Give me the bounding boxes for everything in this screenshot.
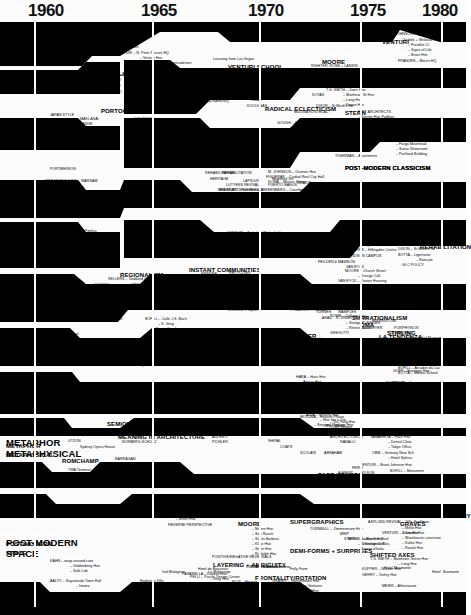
entry-label: SHIRAI <box>268 440 280 444</box>
entry-label: PORTMEIRION <box>50 168 76 172</box>
entry-label: – Portland Building <box>396 153 427 157</box>
entry-label: GOUGH <box>362 477 376 481</box>
entry-label: GLENDENNING <box>232 243 259 247</box>
entry-label: DROP CITY <box>130 289 150 293</box>
entry-label: BRUSSELS <box>170 359 190 363</box>
entry-label: – Imatra <box>76 585 90 589</box>
entry-label: – Noli a Roma <box>302 358 325 362</box>
entry-label: KOTAS <box>312 94 324 98</box>
vertical-rule-1965 <box>152 22 154 607</box>
entry-label: GLC POLICY <box>402 264 424 268</box>
entry-label: TAKEYAMA – Housing <box>225 303 262 307</box>
entry-label: GABETTI <box>105 79 121 83</box>
entry-label: Hotel Miramonte <box>432 571 459 575</box>
entry-label: FUJII – Houses <box>265 608 290 612</box>
entry-label: ORNAMENT <box>235 160 256 164</box>
entry-label: BLOM <box>300 303 310 307</box>
vertical-rule-1960 <box>34 22 36 607</box>
entry-label: FORMALISM <box>46 63 68 67</box>
entry-label: – Douglas Hse <box>172 590 196 594</box>
heading-label: SEMIOTICS <box>107 421 141 427</box>
entry-label: REGIONALISM <box>229 34 255 38</box>
entry-label: ERSKINE <box>201 273 217 277</box>
entry-label: TWA Terminal <box>68 469 91 473</box>
entry-label: GOFF – Bavinger Hse <box>393 370 430 374</box>
entry-label: LSD <box>190 400 197 404</box>
movement-label-ad-hoc-urbanist: AD HOC URBANIST <box>4 340 95 350</box>
heading-label: HOLLEIN <box>298 134 325 140</box>
entry-label: HUET <box>378 338 388 342</box>
entry-label: COLLINS – Sitte Revival <box>38 333 79 337</box>
vertical-rule-1975 <box>360 22 362 607</box>
entry-label: – Piazza d'Italia <box>326 80 352 84</box>
entry-label: BEEBY – Townhouse <box>388 81 423 85</box>
entry-label: JOHANSEN <box>268 510 288 514</box>
entry-label: BENNISON <box>322 206 341 210</box>
entry-label: – Wellesley Coll. <box>112 46 139 50</box>
entry-label: ERITH <box>226 198 237 202</box>
entry-label: PICHLER <box>212 441 228 445</box>
entry-label: – Marburg <box>127 364 144 368</box>
entry-label: SILVETTI <box>340 482 356 486</box>
entry-label: GURGOLA – Sherman Fairchild Center <box>236 70 300 74</box>
entry-label: DISNEYLAND <box>155 181 178 185</box>
entry-label: DERBYSHIRE – Hillingdon Centre <box>340 249 396 253</box>
entry-label: Botta Hse <box>58 395 74 399</box>
entry-label: HERITAGE <box>210 178 229 182</box>
year-tick-1975: 1975 <box>350 1 386 21</box>
heading-label: ROMCHAMP <box>62 458 99 464</box>
entry-label: RANALLI <box>340 441 355 445</box>
entry-label: WAR REBUILDING – WARSAW <box>45 180 98 184</box>
vertical-rule-1970 <box>259 22 261 607</box>
entry-label: – Smith Hse <box>175 598 195 602</box>
entry-label: BOLOGNA <box>327 238 345 242</box>
heading-label: METAPHYSICAL <box>6 452 54 458</box>
entry-label: ELISSON <box>290 516 306 520</box>
entry-label: PORT GRIMAUD <box>243 282 271 286</box>
entry-label: AGREST <box>338 472 353 476</box>
entry-label: PASTICHE <box>163 192 181 196</box>
entry-label: WILSON <box>360 472 374 476</box>
entry-label: HOWARD <box>364 431 381 435</box>
entry-label: GUEDES <box>94 284 109 288</box>
entry-label: MACK <box>380 482 391 486</box>
entry-label: BARRAGAN <box>115 458 136 462</box>
entry-label: AULENTI <box>105 85 121 89</box>
entry-label: GOUGH – Hookes Res <box>277 122 315 126</box>
entry-label: – Brant Hse <box>408 54 428 58</box>
entry-label: MEIER – Athenaeum <box>382 585 416 589</box>
entry-label: – Franklin Ct <box>240 237 261 241</box>
entry-label: PRAN <box>305 86 315 90</box>
entry-label: Hotel Miramonte <box>384 567 411 571</box>
entry-label: – Johansen Hse <box>143 308 170 312</box>
entry-label: SPOERRY – Port Grimaud <box>219 189 263 193</box>
entry-label: DARBOURNE & DARKE – Pimlico <box>40 230 97 234</box>
trunk-metaphor-metaphysical <box>0 418 466 436</box>
heading-label: POST-MODERN CLASSICISM <box>345 165 431 171</box>
entry-label: JOHNSON – AT&T Building <box>395 33 440 37</box>
entry-label: – Brant Hse <box>176 518 196 522</box>
entry-label: BOFILL – Monument <box>390 470 424 474</box>
entry-label: SELF-BUILD <box>186 284 207 288</box>
entry-label: TIGERMAN <box>312 390 331 394</box>
entry-label: PAVON <box>242 359 254 363</box>
entry-label: GRACIE <box>297 182 311 186</box>
entry-label: GOFF – Nicol Hse <box>89 395 119 399</box>
entry-label: – Pensacola Place <box>348 410 379 414</box>
entry-label: PUERTO BANUS <box>268 184 297 188</box>
year-tick-1970: 1970 <box>248 1 284 21</box>
entry-label: TIGERMAN – Apartments <box>335 155 377 159</box>
entry-label: GREGOTTI <box>330 332 349 336</box>
entry-label: – Tokyo Office <box>388 446 411 450</box>
entry-label: BOTTA – Houses <box>386 382 414 386</box>
heading-label: SPACE <box>6 550 27 556</box>
year-tick-1960: 1960 <box>28 1 64 21</box>
entry-label: MWP – Hadley Hse <box>194 72 226 76</box>
entry-label: P. WALKER – Houses <box>290 309 326 313</box>
entry-label: SELLERS – Goddard Coll. <box>108 278 152 282</box>
entry-label: – Pershore <box>98 240 116 244</box>
entry-label: LE CORBUSIER – Carpenter Center <box>40 605 100 609</box>
entry-label: Folly Farm <box>290 568 307 572</box>
entry-label: – Snyder Hse <box>96 302 118 306</box>
entry-label: AYMONINO <box>200 359 220 363</box>
